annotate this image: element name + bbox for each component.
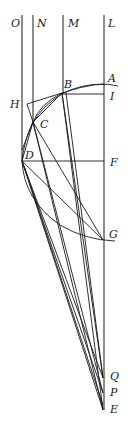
label-I: I [109,90,115,103]
line-CP [33,122,103,393]
line-HC [27,104,33,122]
label-H: H [9,98,20,111]
label-P: P [109,386,118,399]
line-C-left-down [22,122,33,150]
line-DG [22,161,103,240]
label-D: D [24,149,34,162]
label-G: G [109,228,118,241]
label-L: L [107,17,115,30]
label-A: A [107,72,116,85]
label-Q: Q [110,370,119,383]
label-B: B [63,78,72,91]
line-CE [33,122,103,410]
label-C: C [40,118,49,131]
line-DQ [22,161,103,378]
label-E: E [109,403,118,416]
label-M: M [67,17,80,30]
label-O: O [11,17,20,30]
label-F: F [109,156,118,169]
label-N: N [36,17,47,30]
geometry-diagram: O N M L A B I H C D F G Q P E [0,0,133,427]
